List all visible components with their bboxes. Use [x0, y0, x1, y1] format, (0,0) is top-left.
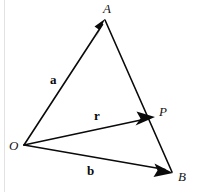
point-label-O: O: [9, 139, 18, 152]
vector-label-r: r: [94, 109, 100, 122]
vector-b-arrowhead: [154, 164, 174, 178]
segment-AB: [105, 20, 172, 172]
point-label-P: P: [159, 105, 167, 118]
vector-label-b: b: [87, 164, 94, 177]
point-label-A: A: [103, 2, 111, 15]
vector-b-shaft: [24, 145, 165, 170]
vector-r-arrowhead: [136, 112, 156, 126]
point-label-B: B: [178, 170, 186, 183]
vector-diagram-canvas: [0, 0, 199, 192]
vector-r-shaft: [24, 119, 148, 146]
vector-a-shaft: [24, 25, 103, 146]
vector-label-a: a: [50, 73, 57, 86]
vector-diagram-figure: O A P B a r b: [0, 0, 199, 192]
